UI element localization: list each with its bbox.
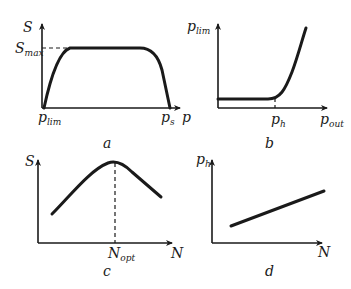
panel-d: ph N d — [196, 151, 331, 279]
panel-c-x-label: N — [170, 245, 184, 261]
panel-a-plim-label: plim — [38, 109, 61, 127]
panel-d-caption: d — [265, 263, 274, 279]
panel-c-caption: c — [103, 263, 111, 279]
panel-d-y-label: ph — [196, 151, 211, 169]
panel-a-y-label: S — [23, 19, 33, 35]
panel-d-x-label: N — [317, 244, 331, 260]
panel-a-x-label: p — [182, 109, 191, 125]
panel-b-y-label: plim — [187, 18, 210, 36]
panel-c-curve — [52, 162, 161, 214]
panel-d-line — [231, 191, 324, 226]
panel-b-curve — [218, 28, 306, 99]
panel-a-caption: a — [103, 135, 111, 151]
panel-c: S Nopt N c — [25, 153, 184, 279]
panel-b: plim ph pout b — [187, 18, 344, 151]
panel-b-ph-label: ph — [271, 111, 286, 129]
panel-c-y-label: S — [25, 153, 35, 169]
panel-b-x-label: pout — [320, 111, 344, 129]
panel-c-nopt-label: Nopt — [107, 245, 135, 263]
panel-a-ps-label: ps — [161, 109, 175, 127]
panel-b-caption: b — [265, 135, 274, 151]
panel-a-curve — [44, 48, 170, 108]
figure: S Smax plim ps p a plim ph pout b S Nopt… — [0, 0, 351, 289]
panel-a-smax-label: Smax — [15, 40, 44, 58]
panel-a: S Smax plim ps p a — [15, 19, 191, 151]
